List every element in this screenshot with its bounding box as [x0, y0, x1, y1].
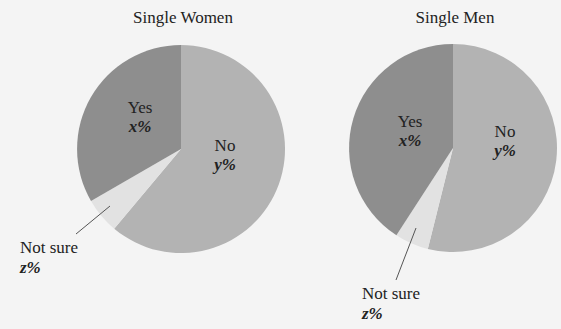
women-pie — [76, 45, 285, 253]
women-not-sure-text: Not sure — [20, 238, 78, 258]
pie-charts — [0, 0, 561, 329]
women-not-sure-value: z% — [20, 258, 78, 278]
women-leader-line — [76, 206, 110, 234]
men-not-sure-text: Not sure — [362, 284, 420, 304]
men-no-value: y% — [480, 141, 530, 160]
women-yes-value: x% — [115, 117, 165, 136]
men-not-sure-label: Not sure z% — [362, 284, 420, 324]
men-yes-label: Yes x% — [385, 112, 435, 150]
women-no-text: No — [200, 136, 250, 155]
men-no-text: No — [480, 122, 530, 141]
men-title: Single Men — [385, 8, 525, 28]
women-yes-text: Yes — [115, 98, 165, 117]
women-no-label: No y% — [200, 136, 250, 174]
women-no-value: y% — [200, 155, 250, 174]
women-yes-label: Yes x% — [115, 98, 165, 136]
men-pie — [349, 44, 557, 280]
women-not-sure-label: Not sure z% — [20, 238, 78, 278]
women-title: Single Women — [113, 8, 253, 28]
men-not-sure-value: z% — [362, 304, 420, 324]
men-yes-text: Yes — [385, 112, 435, 131]
men-no-label: No y% — [480, 122, 530, 160]
men-yes-value: x% — [385, 131, 435, 150]
